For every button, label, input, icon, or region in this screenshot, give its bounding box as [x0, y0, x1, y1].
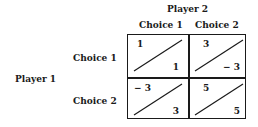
player1-label: Player 1	[15, 74, 56, 84]
payoff-cell-1-2: 3 − 3	[189, 35, 248, 77]
player2-label: Player 2	[167, 4, 208, 14]
player1-payoff: 5	[203, 83, 209, 93]
player2-payoff: − 3	[223, 62, 240, 72]
player1-payoff: 3	[203, 39, 209, 49]
player2-payoff: 3	[173, 106, 179, 116]
payoff-cell-2-1: − 3 3	[128, 79, 187, 121]
player2-choice2-header: Choice 2	[195, 20, 239, 30]
player2-choice1-header: Choice 1	[139, 20, 183, 30]
player1-payoff: 1	[137, 39, 143, 49]
payoff-cell-1-1: 1 1	[128, 35, 187, 77]
player1-choice1-header: Choice 1	[73, 53, 117, 63]
player2-payoff: 1	[173, 62, 179, 72]
player1-choice2-header: Choice 2	[73, 96, 117, 106]
payoff-matrix: 1 1 3 − 3 − 3 3 5 5	[127, 34, 246, 119]
player1-payoff: − 3	[134, 83, 151, 93]
player2-payoff: 5	[234, 106, 240, 116]
payoff-cell-2-2: 5 5	[189, 79, 248, 121]
